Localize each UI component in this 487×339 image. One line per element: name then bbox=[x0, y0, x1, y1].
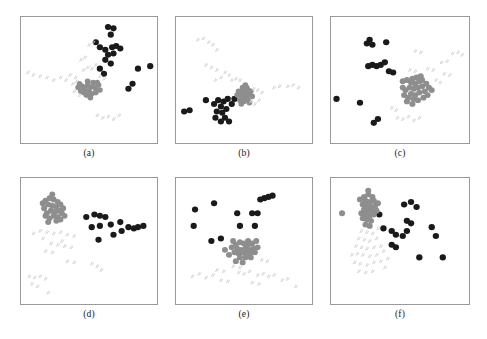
data-point bbox=[84, 56, 87, 59]
data-point bbox=[373, 261, 376, 264]
data-point bbox=[226, 252, 232, 258]
data-point bbox=[205, 63, 208, 66]
data-point bbox=[89, 224, 95, 230]
data-point bbox=[82, 68, 85, 71]
data-point bbox=[227, 280, 230, 283]
data-point bbox=[53, 232, 56, 235]
data-point bbox=[97, 87, 103, 93]
data-point bbox=[267, 275, 270, 278]
data-point bbox=[233, 258, 239, 264]
panel-c-scatter bbox=[331, 17, 469, 143]
series-cluster-black bbox=[191, 193, 276, 244]
series-cluster-gray bbox=[400, 73, 435, 107]
data-point bbox=[357, 197, 363, 203]
data-point bbox=[357, 270, 360, 273]
data-point bbox=[231, 79, 234, 82]
data-point bbox=[386, 257, 389, 260]
panel-b bbox=[175, 16, 313, 144]
data-point bbox=[135, 224, 141, 230]
data-point bbox=[186, 107, 192, 113]
data-point bbox=[97, 213, 103, 219]
data-point bbox=[135, 66, 141, 72]
data-point bbox=[461, 53, 464, 56]
data-point bbox=[252, 223, 258, 229]
data-point bbox=[367, 223, 373, 229]
data-point bbox=[226, 119, 232, 125]
data-point bbox=[228, 74, 231, 77]
data-point bbox=[359, 262, 362, 265]
data-point bbox=[224, 71, 227, 74]
data-point bbox=[256, 89, 259, 92]
data-point bbox=[239, 79, 242, 82]
data-point bbox=[254, 102, 257, 105]
data-point bbox=[211, 200, 217, 206]
data-point bbox=[371, 120, 377, 126]
data-point bbox=[119, 228, 125, 234]
data-point bbox=[423, 81, 429, 87]
data-point bbox=[33, 276, 36, 279]
data-point bbox=[47, 291, 50, 294]
data-point bbox=[107, 115, 110, 118]
data-point bbox=[286, 85, 289, 88]
data-point bbox=[360, 246, 363, 249]
data-point bbox=[414, 50, 417, 53]
data-point bbox=[59, 231, 62, 234]
data-point bbox=[356, 252, 359, 255]
data-point bbox=[80, 58, 83, 61]
data-point bbox=[375, 253, 378, 256]
data-point bbox=[218, 235, 224, 241]
data-point bbox=[97, 223, 103, 229]
data-point bbox=[426, 67, 429, 70]
data-point bbox=[362, 253, 365, 256]
data-point bbox=[216, 68, 219, 71]
data-point bbox=[425, 92, 431, 98]
data-point bbox=[103, 77, 106, 80]
data-point bbox=[222, 270, 225, 273]
data-point bbox=[418, 73, 424, 79]
panel-f-caption: (f) bbox=[330, 309, 470, 319]
data-point bbox=[366, 263, 369, 266]
data-point bbox=[369, 42, 375, 48]
data-point bbox=[273, 86, 276, 89]
panel-b-caption: (b) bbox=[175, 148, 313, 158]
data-point bbox=[368, 218, 374, 224]
data-point bbox=[429, 87, 435, 93]
data-point bbox=[140, 223, 146, 229]
data-point bbox=[110, 25, 116, 31]
data-point bbox=[220, 279, 223, 282]
data-point bbox=[414, 70, 417, 73]
data-point bbox=[208, 238, 214, 244]
data-point bbox=[210, 66, 213, 69]
data-point bbox=[74, 76, 77, 79]
data-point bbox=[61, 240, 64, 243]
data-point bbox=[377, 227, 380, 230]
data-point bbox=[400, 85, 406, 91]
data-point bbox=[96, 265, 99, 268]
data-point bbox=[433, 233, 439, 239]
data-point bbox=[418, 116, 421, 119]
data-point bbox=[363, 238, 366, 241]
data-point bbox=[384, 266, 387, 269]
data-point bbox=[36, 285, 39, 288]
series-cluster-black bbox=[83, 211, 146, 242]
panel-d-plot-area bbox=[20, 177, 158, 305]
panel-e-plot-area bbox=[175, 177, 313, 305]
data-point bbox=[49, 191, 55, 197]
panel-e bbox=[175, 177, 313, 305]
data-point bbox=[269, 193, 275, 199]
data-point bbox=[42, 237, 45, 240]
data-point bbox=[400, 233, 406, 239]
data-point bbox=[369, 240, 372, 243]
data-point bbox=[102, 214, 108, 220]
panel-f-plot-area bbox=[330, 177, 470, 305]
panel-grid: (a) (b) (c) (d) (e) bbox=[0, 0, 487, 339]
data-point bbox=[382, 59, 388, 65]
data-point bbox=[70, 246, 73, 249]
data-point bbox=[191, 275, 194, 278]
data-point bbox=[364, 271, 367, 274]
data-point bbox=[218, 119, 224, 125]
data-point bbox=[129, 81, 135, 87]
data-point bbox=[73, 90, 76, 93]
data-point bbox=[63, 245, 66, 248]
data-point bbox=[44, 277, 47, 280]
